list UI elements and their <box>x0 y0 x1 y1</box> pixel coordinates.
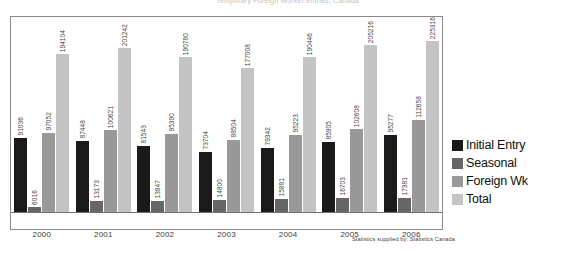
bar-value-label: 95277 <box>387 114 394 133</box>
bar-value-label: 102608 <box>353 105 360 127</box>
bar[interactable] <box>199 152 212 212</box>
legend-item-total[interactable]: Total <box>452 190 572 208</box>
bar-slot: 13173 <box>90 17 103 212</box>
bar[interactable] <box>384 135 397 212</box>
bar[interactable] <box>213 200 226 212</box>
legend-swatch-icon <box>452 176 463 187</box>
bar[interactable] <box>76 141 89 212</box>
bar-slot: 100621 <box>104 17 117 212</box>
bar-value-label: 95223 <box>292 114 299 133</box>
bar[interactable] <box>137 146 150 212</box>
bar-wrap: 97052 <box>42 17 55 212</box>
bar-slot: 95223 <box>289 17 302 212</box>
legend-swatch-icon <box>452 194 463 205</box>
bar-value-label: 14800 <box>216 179 223 198</box>
bar[interactable] <box>118 48 131 212</box>
bar-wrap: 17381 <box>398 17 411 212</box>
legend-item-seasonal[interactable]: Seasonal <box>452 154 572 172</box>
bar[interactable] <box>227 140 240 212</box>
bar[interactable] <box>275 199 288 212</box>
bar-wrap: 112658 <box>412 17 425 212</box>
bar-value-label: 16703 <box>339 177 346 196</box>
bar-wrap: 95223 <box>289 17 302 212</box>
bar-wrap: 91036 <box>14 17 27 212</box>
bar-slot: 17381 <box>398 17 411 212</box>
chart-container: Temporary Foreign Worker entries, Canada… <box>0 0 575 256</box>
bar[interactable] <box>14 138 27 212</box>
bar[interactable] <box>398 198 411 212</box>
legend-item-initial-entry[interactable]: Initial Entry <box>452 136 572 154</box>
bar-slot: 15881 <box>275 17 288 212</box>
bar-group: 8590516703102608205216 <box>319 17 381 212</box>
bar-value-label: 177008 <box>244 44 251 66</box>
x-axis-tick-label: 2001 <box>73 230 135 239</box>
bar-slot: 16703 <box>336 17 349 212</box>
bar-wrap: 102608 <box>350 17 363 212</box>
bar-value-label: 225316 <box>429 17 436 39</box>
bar[interactable] <box>151 201 164 212</box>
clipped-title-text: Temporary Foreign Worker entries, Canada <box>216 0 358 5</box>
chart-legend: Initial EntrySeasonalForeign WkTotal <box>452 136 572 208</box>
x-axis-tick-label: 2002 <box>134 230 196 239</box>
bar[interactable] <box>364 45 377 212</box>
bar-wrap: 16703 <box>336 17 349 212</box>
bar-value-label: 95390 <box>168 113 175 132</box>
bar-slot: 79342 <box>261 17 274 212</box>
bar[interactable] <box>179 57 192 212</box>
bar-wrap: 81543 <box>137 17 150 212</box>
bar-wrap: 177008 <box>241 17 254 212</box>
legend-label: Initial Entry <box>466 138 525 152</box>
bar[interactable] <box>426 41 439 212</box>
bar-wrap: 100621 <box>104 17 117 212</box>
bar-slot: 205216 <box>364 17 377 212</box>
bar-slot: 6016 <box>28 17 41 212</box>
bar-slot: 95277 <box>384 17 397 212</box>
bar-value-label: 100621 <box>107 106 114 128</box>
bar-value-label: 17381 <box>401 177 408 196</box>
bar-wrap: 194104 <box>56 17 69 212</box>
bar-slot: 190780 <box>179 17 192 212</box>
bar-slot: 190446 <box>303 17 316 212</box>
bar-slot: 85905 <box>322 17 335 212</box>
x-axis-tick-label: 2000 <box>11 230 73 239</box>
bar-value-label: 15881 <box>278 178 285 197</box>
legend-label: Total <box>466 192 491 206</box>
bar[interactable] <box>42 133 55 212</box>
bar-value-label: 190446 <box>306 33 313 55</box>
bar[interactable] <box>322 142 335 212</box>
bar[interactable] <box>412 120 425 212</box>
bar-value-label: 87448 <box>79 120 86 139</box>
bar-wrap: 85905 <box>322 17 335 212</box>
bar[interactable] <box>350 129 363 212</box>
bar-wrap: 73704 <box>199 17 212 212</box>
bar-wrap: 95390 <box>165 17 178 212</box>
bar-slot: 88504 <box>227 17 240 212</box>
x-axis-tick-label: 2003 <box>196 230 258 239</box>
bar-group: 793421588195223190446 <box>257 17 319 212</box>
bar[interactable] <box>241 68 254 212</box>
bar-slot: 81543 <box>137 17 150 212</box>
bar[interactable] <box>56 54 69 212</box>
bar-wrap: 190446 <box>303 17 316 212</box>
bar[interactable] <box>165 134 178 212</box>
bar[interactable] <box>104 130 117 212</box>
bar-groups: 9103660169705219410487448131731006212012… <box>11 17 442 212</box>
bar-wrap: 95277 <box>384 17 397 212</box>
bar-group: 91036601697052194104 <box>11 17 73 212</box>
bar-value-label: 79342 <box>264 127 271 146</box>
bar-slot: 177008 <box>241 17 254 212</box>
bar-value-label: 88504 <box>230 119 237 138</box>
bar-value-label: 91036 <box>17 117 24 136</box>
bar-wrap: 225316 <box>426 17 439 212</box>
bar-group: 9527717381112658225316 <box>380 17 442 212</box>
bar[interactable] <box>289 135 302 212</box>
bar-value-label: 201242 <box>121 24 128 46</box>
legend-item-foreign-wk[interactable]: Foreign Wk <box>452 172 572 190</box>
bar[interactable] <box>90 201 103 212</box>
bar[interactable] <box>261 148 274 212</box>
x-axis-tick-label: 2004 <box>257 230 319 239</box>
bar-wrap: 13173 <box>90 17 103 212</box>
bar[interactable] <box>336 198 349 212</box>
bar[interactable] <box>303 57 316 212</box>
bar-slot: 194104 <box>56 17 69 212</box>
